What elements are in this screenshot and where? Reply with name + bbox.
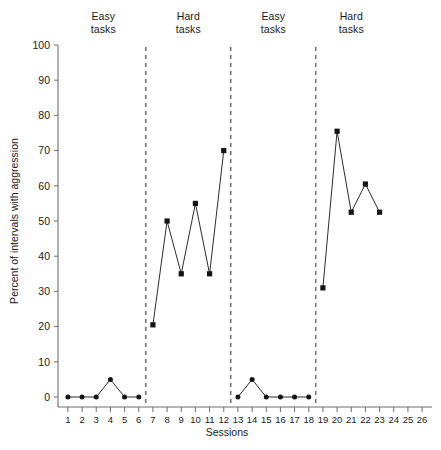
x-tick-label: 14	[247, 414, 258, 425]
data-point-marker	[264, 395, 269, 400]
y-tick-label: 40	[38, 250, 50, 262]
x-tick-label: 5	[122, 414, 127, 425]
data-point-marker	[164, 218, 169, 223]
x-tick-label: 11	[205, 414, 215, 425]
x-axis: 1234567891011121314151617181920212223242…	[58, 407, 432, 425]
data-point-marker	[108, 377, 113, 382]
x-tick-label: 13	[233, 414, 244, 425]
series-line-phase-3	[238, 379, 309, 397]
data-point-marker	[207, 271, 212, 276]
data-point-marker	[221, 148, 226, 153]
y-tick-label: 30	[38, 285, 50, 297]
data-point-marker	[122, 395, 127, 400]
series-line-phase-2	[153, 151, 224, 325]
aggression-line-chart: Easy tasks Hard tasks Easy tasks Hard ta…	[0, 0, 441, 450]
x-tick-label: 8	[164, 414, 169, 425]
y-tick-label: 100	[32, 39, 50, 51]
phase-divider-group	[146, 47, 316, 407]
x-tick-label: 7	[150, 414, 155, 425]
x-tick-label: 10	[190, 414, 201, 425]
data-point-marker	[377, 210, 382, 215]
x-tick-label: 20	[332, 414, 343, 425]
x-tick-label: 6	[136, 414, 141, 425]
data-point-marker	[179, 271, 184, 276]
x-tick-label: 15	[261, 414, 272, 425]
series-line-phase-4	[323, 131, 380, 288]
data-point-marker	[292, 395, 297, 400]
data-point-marker	[136, 395, 141, 400]
y-tick-group: 0102030405060708090100	[32, 39, 58, 403]
y-tick-label: 50	[38, 215, 50, 227]
data-point-marker	[250, 377, 255, 382]
x-tick-label: 4	[108, 414, 113, 425]
x-tick-label: 23	[374, 414, 385, 425]
x-tick-label: 22	[360, 414, 371, 425]
y-axis-title: Percent of intervals with aggression	[8, 138, 20, 304]
y-tick-label: 10	[38, 356, 50, 368]
data-point-marker	[80, 395, 85, 400]
y-tick-label: 90	[38, 74, 50, 86]
data-point-marker	[235, 395, 240, 400]
x-tick-label: 17	[289, 414, 300, 425]
y-tick-label: 0	[44, 391, 50, 403]
x-tick-label: 3	[94, 414, 99, 425]
x-tick-label: 12	[218, 414, 229, 425]
x-tick-label: 16	[275, 414, 286, 425]
data-point-marker	[94, 395, 99, 400]
data-point-marker	[306, 395, 311, 400]
data-point-marker	[320, 285, 325, 290]
x-tick-label: 19	[318, 414, 329, 425]
x-tick-label: 18	[303, 414, 314, 425]
x-tick-label: 26	[417, 414, 428, 425]
data-series-group	[65, 129, 382, 400]
x-tick-group: 1234567891011121314151617181920212223242…	[65, 407, 427, 425]
data-point-marker	[349, 210, 354, 215]
y-tick-label: 80	[38, 109, 50, 121]
x-tick-label: 1	[65, 414, 70, 425]
y-axis: 0102030405060708090100	[32, 39, 58, 407]
data-point-marker	[150, 322, 155, 327]
x-tick-label: 24	[388, 414, 399, 425]
x-tick-label: 21	[346, 414, 357, 425]
x-tick-label: 2	[79, 414, 84, 425]
y-tick-label: 60	[38, 180, 50, 192]
x-tick-label: 25	[403, 414, 414, 425]
series-line-phase-1	[68, 379, 139, 397]
data-point-marker	[65, 395, 70, 400]
data-point-marker	[363, 181, 368, 186]
y-tick-label: 70	[38, 144, 50, 156]
data-point-marker	[334, 129, 339, 134]
data-point-marker	[193, 201, 198, 206]
data-point-marker	[278, 395, 283, 400]
x-axis-title: Sessions	[206, 426, 249, 438]
y-tick-label: 20	[38, 320, 50, 332]
x-tick-label: 9	[179, 414, 184, 425]
